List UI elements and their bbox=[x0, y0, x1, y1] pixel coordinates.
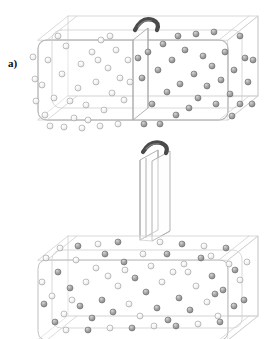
partition-wall-a bbox=[133, 28, 148, 120]
panel-b-illustration bbox=[0, 140, 274, 339]
panel-b: b) bbox=[0, 140, 274, 339]
figure-container: a) bbox=[0, 0, 274, 339]
partition-wall-b-removed[interactable] bbox=[140, 150, 170, 241]
